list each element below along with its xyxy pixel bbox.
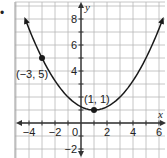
x-axis-label: x: [157, 108, 163, 120]
y-axis-arrow-up-icon: [78, 2, 84, 8]
point-marker: [91, 107, 97, 113]
parabola-chart: −4−20246864−2xy(−3, 5)(1, 1): [0, 0, 167, 158]
labels: −4−20246864−2xy(−3, 5)(1, 1): [16, 1, 163, 155]
y-tick-label: 4: [71, 65, 77, 77]
x-tick-label: 4: [130, 126, 136, 138]
y-tick-label: 6: [71, 39, 77, 51]
y-tick-label: −2: [64, 143, 77, 155]
point-label: (1, 1): [84, 93, 110, 105]
y-axis-arrow-down-icon: [78, 151, 84, 157]
x-tick-label: 0: [72, 126, 78, 138]
x-tick-label: −2: [49, 126, 62, 138]
x-tick-label: −4: [23, 126, 36, 138]
point-label: (−3, 5): [16, 68, 48, 80]
x-axis-arrow-left-icon: [16, 120, 22, 126]
point-marker: [39, 55, 45, 61]
y-tick-label: 8: [71, 13, 77, 25]
grid: [15, 2, 165, 158]
y-axis-label: y: [84, 1, 90, 13]
x-tick-label: 6: [156, 126, 162, 138]
x-tick-label: 2: [104, 126, 110, 138]
